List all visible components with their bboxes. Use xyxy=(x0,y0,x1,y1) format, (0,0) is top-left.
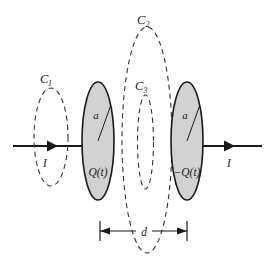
loop-c3-ellipse xyxy=(138,95,154,189)
separation-label: d xyxy=(141,226,147,238)
loop-c1-subscript: 1 xyxy=(48,79,52,88)
dimension-left-arrowhead xyxy=(100,228,110,235)
physics-figure: I I C 1 C 2 C 3 a Q(t) xyxy=(0,0,272,265)
left-plate-group: a Q(t) xyxy=(82,82,114,200)
left-plate-radius-label: a xyxy=(93,109,99,121)
loop-c1-label-group: C 1 xyxy=(40,72,52,88)
left-current-label: I xyxy=(42,157,48,169)
loop-c1-ellipse xyxy=(34,88,68,186)
right-plate-group: a −Q(t) xyxy=(171,82,203,200)
right-current-arrowhead xyxy=(224,141,235,152)
loop-c2-label-group: C 2 xyxy=(137,13,150,29)
right-plate-charge-label: −Q(t) xyxy=(174,166,201,179)
left-wire-group xyxy=(13,141,84,152)
right-plate-radius-label: a xyxy=(182,109,188,121)
right-current-label: I xyxy=(226,157,232,169)
loop-c2-ellipse xyxy=(122,27,172,253)
separation-dimension-group: d xyxy=(100,221,187,241)
left-plate-charge-label: Q(t) xyxy=(88,166,107,179)
dimension-right-arrowhead xyxy=(177,228,187,235)
loop-c2-subscript: 2 xyxy=(146,20,150,29)
loop-c3-label-group: C 3 xyxy=(135,79,148,95)
capacitor-diagram-svg: I I C 1 C 2 C 3 a Q(t) xyxy=(0,0,272,265)
loop-c3-subscript: 3 xyxy=(143,86,148,95)
left-current-arrowhead xyxy=(47,141,58,152)
